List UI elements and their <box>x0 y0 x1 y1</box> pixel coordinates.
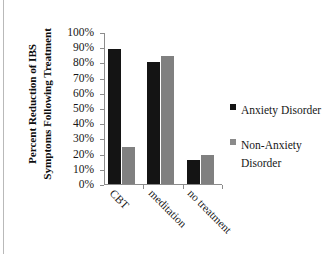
y-axis-tick-label: 80% <box>73 58 94 70</box>
legend-item-non-anxiety-disorder: Non-Anxiety Disorder <box>230 135 334 171</box>
y-axis-tick-label: 10% <box>73 164 94 176</box>
y-axis-tick-label: 90% <box>73 42 94 54</box>
y-axis-title: Percent Reduction of IBS Symptoms Follow… <box>16 18 62 190</box>
chart-legend: Anxiety Disorder Non-Anxiety Disorder <box>230 100 334 188</box>
bar-series-container <box>105 33 222 184</box>
bar <box>122 147 135 184</box>
y-axis-tick <box>100 94 104 95</box>
y-axis-tick-label: 30% <box>73 134 94 146</box>
legend-label-non-anxiety-disorder-line-2: Disorder <box>241 157 281 169</box>
legend-item-anxiety-disorder: Anxiety Disorder <box>230 100 334 118</box>
page-edge-rule <box>3 0 4 254</box>
bar <box>108 49 121 184</box>
y-axis-tick-labels: 100%90%80%70%60%50%40%30%20%10%0% <box>58 33 100 185</box>
y-axis-tick <box>100 109 104 110</box>
y-axis-tick-label: 100% <box>67 27 94 39</box>
x-axis-category-label: meditation <box>147 187 190 230</box>
legend-label-anxiety-disorder: Anxiety Disorder <box>241 104 321 116</box>
y-axis-tick <box>100 124 104 125</box>
legend-swatch-icon-non-anxiety-disorder <box>230 139 236 145</box>
y-axis-tick-label: 0% <box>79 179 94 191</box>
plot-area <box>104 33 222 185</box>
y-axis-tick <box>100 33 104 34</box>
legend-label-non-anxiety-disorder-line-1: Non-Anxiety <box>241 139 302 151</box>
y-axis-tick-label: 70% <box>73 73 94 85</box>
y-axis-tick <box>100 79 104 80</box>
bar-group <box>144 33 183 184</box>
bar-group <box>184 33 223 184</box>
y-axis-tick <box>100 170 104 171</box>
x-axis-category-label: CBT <box>107 187 131 211</box>
y-axis-tick <box>100 63 104 64</box>
y-axis-title-line-2: Symptoms Following Treatment <box>39 18 54 190</box>
bar-group <box>105 33 144 184</box>
y-axis-tick-label: 40% <box>73 118 94 130</box>
y-axis-tick-label: 50% <box>73 103 94 115</box>
y-axis-tick <box>100 139 104 140</box>
y-axis-tick-label: 20% <box>73 149 94 161</box>
x-axis-category-label: no treatment <box>186 187 235 236</box>
bar <box>147 62 160 184</box>
y-axis-title-line-1: Percent Reduction of IBS <box>26 44 38 164</box>
x-axis-line <box>104 184 222 185</box>
bar <box>201 155 214 184</box>
bar-chart-figure: Percent Reduction of IBS Symptoms Follow… <box>0 0 335 254</box>
y-axis-tick <box>100 185 104 186</box>
bar <box>161 56 174 184</box>
y-axis-tick-label: 60% <box>73 88 94 100</box>
legend-swatch-icon-anxiety-disorder <box>230 104 236 110</box>
y-axis-tick <box>100 155 104 156</box>
x-axis-category-labels: CBTmeditationno treatment <box>104 187 264 251</box>
bar <box>187 160 200 184</box>
y-axis-tick <box>100 48 104 49</box>
